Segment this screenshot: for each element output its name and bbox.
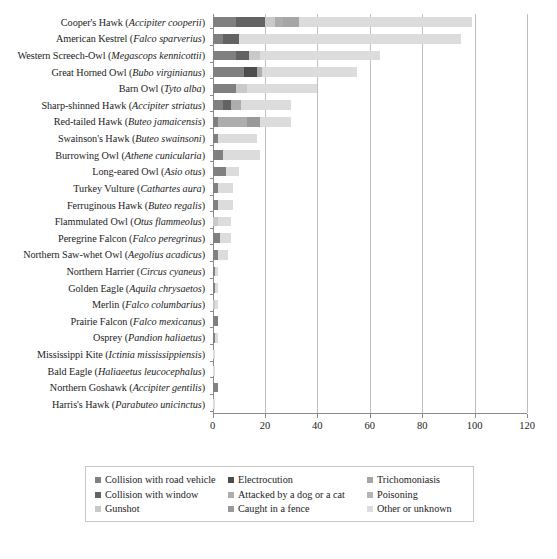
legend-item[interactable]: Gunshot: [95, 503, 228, 515]
legend: Collision with road vehicleElectrocution…: [85, 466, 474, 522]
legend-item[interactable]: Attacked by a dog or a cat: [228, 489, 367, 501]
stacked-bar[interactable]: [213, 134, 258, 144]
table-row: Golden Eagle (Aquila chrysaetos): [0, 280, 557, 297]
species-label: Prairie Falcon (Falco mexicanus): [0, 316, 209, 327]
legend-swatch-icon: [367, 506, 373, 512]
legend-label: Collision with road vehicle: [105, 474, 216, 486]
bar-segment: [218, 250, 228, 260]
stacked-bar[interactable]: [213, 283, 218, 293]
stacked-bar[interactable]: [213, 200, 234, 210]
stacked-bar[interactable]: [213, 150, 260, 160]
bar-track: [209, 346, 557, 363]
bar-segment: [262, 67, 356, 77]
bar-track: [209, 280, 557, 297]
stacked-bar[interactable]: [213, 117, 292, 127]
bar-track: [209, 130, 557, 147]
y-axis-tick: [210, 361, 213, 362]
x-axis-tick-label: 80: [417, 420, 428, 431]
species-label: Northern Goshawk (Accipiter gentilis): [0, 382, 209, 393]
legend-label: Collision with window: [105, 489, 198, 501]
stacked-bar[interactable]: [213, 333, 218, 343]
stacked-bar[interactable]: [213, 399, 216, 409]
x-axis-tick: [265, 414, 266, 418]
legend-label: Caught in a fence: [238, 503, 310, 515]
stacked-bar[interactable]: [213, 84, 318, 94]
species-label: Bald Eagle (Haliaeetus leucocephalus): [0, 366, 209, 377]
species-label: Red-tailed Hawk (Buteo jamaicensis): [0, 116, 209, 127]
legend-label: Other or unknown: [377, 503, 452, 515]
stacked-bar[interactable]: [213, 17, 472, 27]
stacked-bar[interactable]: [213, 34, 462, 44]
stacked-bar[interactable]: [213, 250, 229, 260]
x-axis-tick: [422, 414, 423, 418]
stacked-bar[interactable]: [213, 217, 231, 227]
legend-item[interactable]: Poisoning: [367, 489, 467, 501]
y-axis-tick: [210, 261, 213, 262]
bar-track: [209, 330, 557, 347]
stacked-bar[interactable]: [213, 183, 234, 193]
table-row: Northern Saw-whet Owl (Aegolius acadicus…: [0, 247, 557, 264]
table-row: Northern Harrier (Circus cyaneus): [0, 263, 557, 280]
y-axis-tick: [210, 128, 213, 129]
stacked-bar[interactable]: [213, 67, 357, 77]
table-row: Cooper's Hawk (Accipiter cooperii): [0, 14, 557, 31]
stacked-bar[interactable]: [213, 350, 216, 360]
x-axis-tick-label: 0: [210, 420, 215, 431]
stacked-bar[interactable]: [213, 233, 231, 243]
table-row: Western Screech-Owl (Megascops kennicott…: [0, 47, 557, 64]
species-label: Mississippi Kite (Ictinia mississippiens…: [0, 349, 209, 360]
table-row: Sharp-shinned Hawk (Accipiter striatus): [0, 97, 557, 114]
table-row: Ferruginous Hawk (Buteo regalis): [0, 197, 557, 214]
bar-track: [209, 197, 557, 214]
stacked-bar[interactable]: [213, 167, 239, 177]
bar-track: [209, 47, 557, 64]
bar-segment: [299, 17, 472, 27]
bar-segment: [236, 17, 265, 27]
species-label: Great Horned Owl (Bubo virginianus): [0, 67, 209, 78]
stacked-bar[interactable]: [213, 366, 216, 376]
y-axis-tick: [210, 145, 213, 146]
bar-segment: [236, 51, 249, 61]
x-axis-tick: [527, 414, 528, 418]
bar-segment: [213, 100, 223, 110]
species-label: Barn Owl (Tyto alba): [0, 83, 209, 94]
species-label: Long-eared Owl (Asio otus): [0, 166, 209, 177]
y-axis-tick: [210, 78, 213, 79]
bar-segment: [223, 150, 260, 160]
legend-item[interactable]: Caught in a fence: [228, 503, 367, 515]
legend-item[interactable]: Collision with window: [95, 489, 228, 501]
y-axis-tick: [210, 161, 213, 162]
species-label: Merlin (Falco columbarius): [0, 299, 209, 310]
legend-swatch-icon: [228, 506, 234, 512]
bar-track: [209, 64, 557, 81]
bar-segment: [231, 100, 241, 110]
y-axis-tick: [210, 294, 213, 295]
stacked-bar[interactable]: [213, 383, 218, 393]
legend-item[interactable]: Electrocution: [228, 474, 367, 486]
legend-swatch-icon: [367, 492, 373, 498]
bar-segment: [249, 51, 259, 61]
y-axis-tick: [210, 111, 213, 112]
species-label: American Kestrel (Falco sparverius): [0, 33, 209, 44]
bar-segment: [260, 117, 291, 127]
stacked-bar[interactable]: [213, 267, 218, 277]
species-label: Golden Eagle (Aquila chrysaetos): [0, 283, 209, 294]
stacked-bar[interactable]: [213, 300, 218, 310]
bar-segment: [218, 200, 234, 210]
bar-segment: [213, 233, 221, 243]
legend-swatch-icon: [95, 492, 101, 498]
legend-item[interactable]: Collision with road vehicle: [95, 474, 228, 486]
stacked-bar[interactable]: [213, 316, 218, 326]
legend-item[interactable]: Trichomoniasis: [367, 474, 467, 486]
x-axis-tick: [213, 414, 214, 418]
bar-track: [209, 396, 557, 413]
table-row: Prairie Falcon (Falco mexicanus): [0, 313, 557, 330]
legend-item[interactable]: Other or unknown: [367, 503, 467, 515]
bar-segment: [213, 383, 218, 393]
legend-swatch-icon: [228, 477, 234, 483]
species-label: Turkey Vulture (Cathartes aura): [0, 183, 209, 194]
stacked-bar[interactable]: [213, 100, 292, 110]
stacked-bar[interactable]: [213, 51, 381, 61]
x-axis-tick-label: 20: [260, 420, 271, 431]
bar-track: [209, 263, 557, 280]
